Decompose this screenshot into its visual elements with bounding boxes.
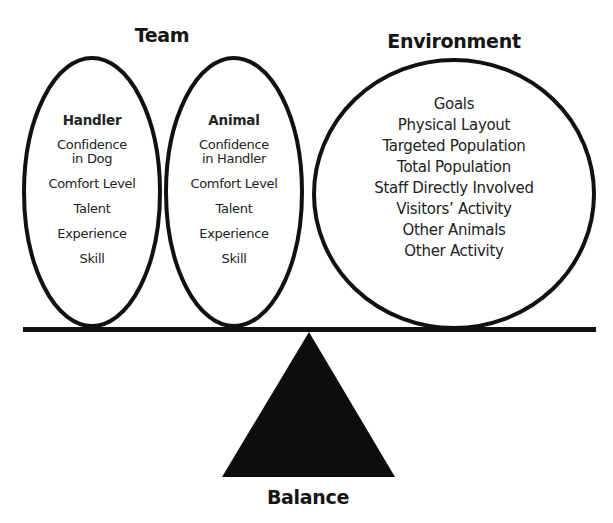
handler-item: Confidencein Dog [32,138,152,166]
environment-item: Staff Directly Involved [344,178,564,199]
fulcrum-triangle [222,332,395,477]
handler-item: Skill [32,252,152,266]
animal-item: Comfort Level [174,177,294,191]
environment-list: Goals Physical Layout Targeted Populatio… [344,94,564,262]
environment-heading: Environment [374,30,534,52]
animal-item: Confidencein Handler [174,138,294,166]
handler-title: Handler [32,112,152,128]
balance-beam [23,327,596,332]
handler-item: Talent [32,202,152,216]
balance-label: Balance [248,486,368,508]
team-heading: Team [112,24,212,46]
animal-item: Skill [174,252,294,266]
handler-column: Handler Confidencein Dog Comfort Level T… [32,112,152,277]
handler-item: Comfort Level [32,177,152,191]
environment-item: Visitors’ Activity [344,199,564,220]
balance-diagram: Team Environment Balance Handler Confide… [0,0,613,523]
environment-item: Total Population [344,157,564,178]
animal-column: Animal Confidencein Handler Comfort Leve… [174,112,294,277]
animal-item: Experience [174,227,294,241]
environment-item: Other Animals [344,220,564,241]
animal-item: Talent [174,202,294,216]
handler-item: Experience [32,227,152,241]
animal-title: Animal [174,112,294,128]
environment-item: Other Activity [344,241,564,262]
environment-item: Goals [344,94,564,115]
environment-item: Targeted Population [344,136,564,157]
environment-item: Physical Layout [344,115,564,136]
